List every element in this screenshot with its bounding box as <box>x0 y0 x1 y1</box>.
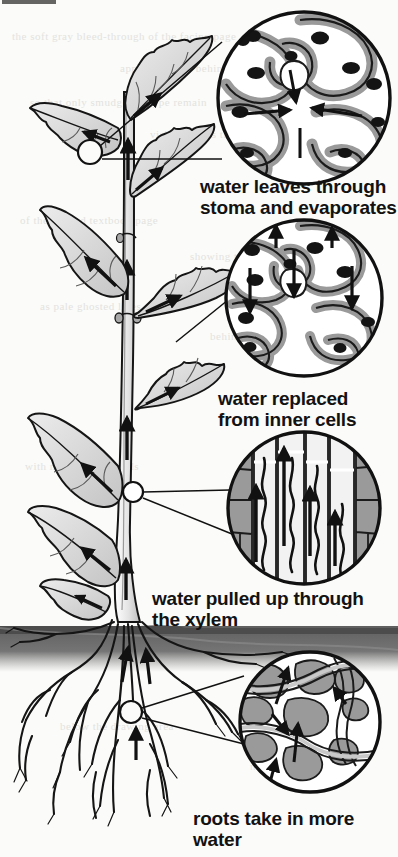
callout-circle-roots <box>240 652 380 792</box>
caption-xylem: water pulled up through the xylem <box>152 588 364 630</box>
leaf-lower-left-2 <box>28 506 120 586</box>
xylem-vessels <box>254 432 354 584</box>
source-marker-xylem <box>123 482 143 502</box>
source-marker-stoma <box>78 140 102 164</box>
caption-roots: roots take in more water <box>193 808 354 850</box>
callout-circle-inner-cells <box>226 220 382 376</box>
leaf-upper-left <box>30 103 121 156</box>
caption-stoma: water leaves through stoma and evaporate… <box>200 176 397 218</box>
leaf-right-lower-2 <box>135 358 224 410</box>
leaf-lower-left <box>28 414 123 507</box>
figure-canvas: the soft gray bleed-through of the facin… <box>0 0 398 857</box>
source-marker-roots <box>120 701 142 723</box>
leaf-right-lower <box>134 266 240 318</box>
callout-circle-xylem <box>228 432 380 584</box>
callout-circle-stoma <box>218 12 390 184</box>
leaf-mid-left <box>40 206 128 296</box>
caption-inner-cells: water replaced from inner cells <box>218 388 356 430</box>
leaf-upper-right <box>125 36 212 120</box>
